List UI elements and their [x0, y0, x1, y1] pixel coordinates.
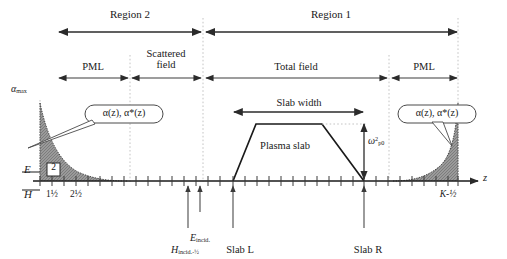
alpha-callout-left-text: α(z), α*(z): [103, 108, 146, 119]
e-incident-sub: incid.: [196, 236, 210, 243]
scattered-field-label: Scattered field: [146, 48, 185, 70]
pml-right-label: PML: [413, 61, 435, 72]
omega-base: ω: [368, 135, 375, 146]
omega-amplitude-label: ω2p0: [368, 136, 384, 147]
e-incident-label: Eincid.: [190, 233, 210, 244]
slab-r-label: Slab R: [354, 244, 382, 255]
pml-left-label: PML: [82, 61, 104, 72]
tick-label-2-5: 2½: [70, 190, 82, 200]
plasma-slab-shape: [233, 124, 364, 181]
total-field-label: Total field: [274, 61, 317, 72]
figure-canvas: Region 2 Region 1 PML Scattered field To…: [0, 0, 507, 259]
alpha-max-label: αmax: [11, 84, 27, 95]
alpha-callout-right-text: α(z), α*(z): [416, 108, 459, 119]
diagram-svg: [0, 0, 507, 259]
z-axis-label: z: [483, 172, 487, 183]
scattered-field-line1: Scattered: [146, 48, 185, 59]
slab-l-label: Slab L: [226, 244, 254, 255]
h-incident-sub: incid.-½: [178, 248, 199, 255]
region-2-label: Region 2: [110, 9, 150, 21]
scattered-field-line2: field: [146, 59, 185, 70]
source-pointer-arrows: [188, 186, 364, 228]
cell-index-label: 2: [51, 163, 56, 173]
field-label-e: E: [24, 164, 31, 176]
omega-sub: p0: [378, 139, 384, 146]
guide-lines: [40, 18, 458, 182]
slab-width-label: Slab width: [276, 97, 321, 108]
h-incident-label: Hincid.-½: [171, 245, 199, 256]
plasma-slab-label: Plasma slab: [260, 140, 310, 151]
field-label-h: H: [24, 189, 32, 201]
tick-label-k-half: K-½: [440, 190, 457, 200]
tick-label-1-5: 1½: [46, 190, 58, 200]
region-1-label: Region 1: [311, 9, 351, 21]
